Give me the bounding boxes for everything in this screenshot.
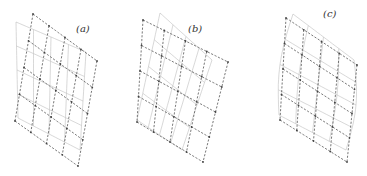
grid-node bbox=[351, 113, 353, 115]
grid-node bbox=[169, 141, 171, 143]
grid-node bbox=[349, 137, 351, 139]
grid-node bbox=[279, 119, 281, 121]
panel-c: (c) bbox=[278, 8, 358, 163]
grid-node bbox=[181, 65, 183, 67]
grid-node bbox=[138, 96, 140, 98]
grid-node bbox=[46, 143, 48, 145]
panel-a: (a) bbox=[14, 13, 98, 167]
grid-node bbox=[329, 151, 331, 153]
grid-node bbox=[202, 161, 204, 163]
grid-node bbox=[303, 29, 305, 31]
grid-node bbox=[61, 154, 63, 156]
grid-node bbox=[163, 30, 165, 32]
grid-node bbox=[298, 104, 300, 106]
grid-node bbox=[30, 131, 32, 133]
grid-node bbox=[28, 40, 30, 42]
grid-node bbox=[141, 45, 143, 47]
grid-node bbox=[87, 113, 89, 115]
grid-node bbox=[14, 120, 16, 122]
grid-node bbox=[319, 66, 321, 68]
grid-node bbox=[313, 140, 315, 142]
grid-node bbox=[336, 77, 338, 79]
grid-node bbox=[285, 17, 287, 19]
panel-label-a: (a) bbox=[76, 23, 90, 34]
figure: (a) (b) (c) bbox=[0, 0, 367, 176]
grid-node bbox=[177, 91, 179, 93]
grid-node bbox=[208, 136, 210, 138]
panel-label-c: (c) bbox=[323, 8, 337, 19]
grid-node bbox=[196, 101, 198, 103]
grid-node bbox=[55, 90, 57, 92]
deformed-grid-a bbox=[16, 22, 86, 150]
deformed-grid-line bbox=[149, 67, 198, 106]
grid-node bbox=[66, 127, 68, 129]
grid-node bbox=[296, 130, 298, 132]
grid-node bbox=[186, 151, 188, 153]
grid-node bbox=[136, 121, 138, 123]
grid-node bbox=[284, 43, 286, 45]
grid-node bbox=[153, 131, 155, 133]
grid-node bbox=[96, 60, 98, 62]
grid-node bbox=[317, 90, 319, 92]
reference-grid-c bbox=[279, 17, 358, 163]
grid-node bbox=[32, 13, 34, 15]
grid-node bbox=[50, 116, 52, 118]
grid-node bbox=[161, 55, 163, 57]
grid-node bbox=[301, 54, 303, 56]
grid-node bbox=[158, 80, 160, 82]
grid-node bbox=[299, 79, 301, 81]
grid-node bbox=[75, 75, 77, 77]
deformed-grid-line bbox=[285, 39, 356, 82]
reference-grid-b bbox=[136, 19, 229, 163]
grid-node bbox=[281, 94, 283, 96]
grid-node bbox=[338, 52, 340, 54]
grid-node bbox=[71, 101, 73, 103]
grid-node bbox=[77, 165, 79, 167]
grid-node bbox=[155, 106, 157, 108]
grid-node bbox=[60, 63, 62, 65]
grid-node bbox=[64, 37, 66, 39]
grid-node bbox=[227, 61, 229, 63]
grid-node bbox=[48, 25, 50, 27]
deformed-grid-c bbox=[278, 14, 356, 150]
grid-node bbox=[356, 64, 358, 66]
grid-node bbox=[334, 102, 336, 104]
grid-node bbox=[315, 115, 317, 117]
reference-grid-a bbox=[14, 13, 98, 167]
grid-node bbox=[215, 111, 217, 113]
deformed-grid-line bbox=[296, 26, 309, 124]
grid-node bbox=[34, 105, 36, 107]
grid-node bbox=[173, 116, 175, 118]
grid-node bbox=[321, 41, 323, 43]
grid-node bbox=[354, 88, 356, 90]
grid-node bbox=[282, 68, 284, 70]
grid-node bbox=[221, 86, 223, 88]
deformed-grid-line bbox=[137, 120, 182, 150]
grid-node bbox=[346, 161, 348, 163]
panel-b: (b) bbox=[136, 13, 229, 163]
grid-node bbox=[332, 126, 334, 128]
panel-label-b: (b) bbox=[188, 23, 202, 34]
deformed-grid-line bbox=[346, 60, 357, 150]
grid-node bbox=[206, 51, 208, 53]
grid-node bbox=[139, 70, 141, 72]
grid-node bbox=[44, 52, 46, 54]
grid-node bbox=[23, 67, 25, 69]
grid-node bbox=[19, 93, 21, 95]
grid-node bbox=[185, 40, 187, 42]
grid-node bbox=[142, 19, 144, 21]
grid-node bbox=[191, 126, 193, 128]
grid-node bbox=[82, 139, 84, 141]
grid-node bbox=[91, 86, 93, 88]
grid-node bbox=[201, 76, 203, 78]
deformed-grid-line bbox=[279, 115, 346, 150]
grid-node bbox=[80, 48, 82, 50]
deformed-grid-line bbox=[160, 13, 212, 60]
grid-node bbox=[39, 78, 41, 80]
